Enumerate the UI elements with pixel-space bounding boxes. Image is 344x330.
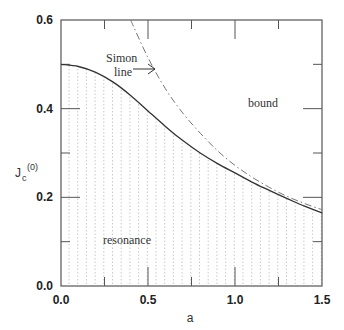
y-axis-label: J c (0) [15, 162, 38, 183]
chart: Simon line bound resonance 0.0 0.2 0.4 0… [0, 0, 344, 330]
resonance-region-label: resonance [103, 233, 151, 247]
simon-label: Simon [106, 51, 137, 65]
y-tick-label: 0.4 [36, 102, 53, 116]
y-tick-label: 0.2 [36, 190, 53, 204]
svg-text:(0): (0) [27, 162, 38, 172]
critical-coupling-curve [61, 64, 322, 213]
x-tick-label: 1.5 [314, 293, 331, 307]
axis-ticks [61, 20, 322, 286]
plot-frame [61, 20, 322, 286]
x-tick-label: 1.0 [227, 293, 244, 307]
bound-region-label: bound [248, 96, 278, 110]
y-tick-label: 0.0 [36, 279, 53, 293]
simon-line-curve [131, 20, 322, 210]
x-axis-label: a [187, 311, 194, 325]
svg-text:J: J [15, 166, 21, 180]
x-tick-label: 0.5 [140, 293, 157, 307]
x-tick-label: 0.0 [53, 293, 70, 307]
y-tick-label: 0.6 [36, 13, 53, 27]
svg-text:c: c [22, 173, 27, 183]
line-label: line [114, 65, 132, 79]
